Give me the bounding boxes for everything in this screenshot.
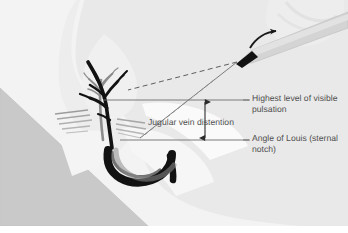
jvp-measurement-figure: Highest level of visible pulsation Angle… [0, 0, 348, 233]
label-highest-level-of-visible-pulsation: Highest level of visible pulsation [252, 93, 348, 114]
label-jugular-vein-distention: Jugular vein distention [148, 117, 258, 128]
bottom-margin-strip [0, 226, 348, 233]
label-angle-of-louis: Angle of Louis (sternal notch) [252, 133, 348, 154]
